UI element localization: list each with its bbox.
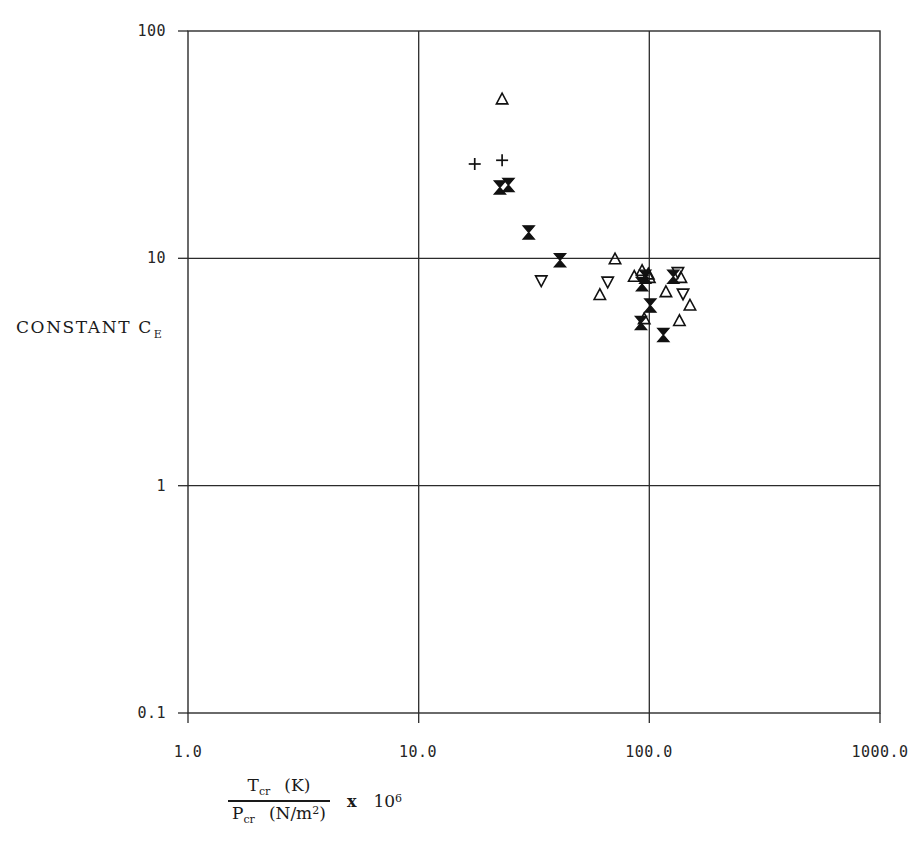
marker-bowtie — [503, 178, 514, 191]
multiplier-times-symbol: x — [347, 792, 357, 811]
marker-triangle-down — [536, 276, 547, 287]
numerator-symbol: Tcr — [248, 776, 271, 798]
marker-triangle-up — [496, 93, 507, 104]
marker-bowtie — [554, 254, 565, 267]
marker-bowtie — [523, 226, 534, 239]
scatter-chart-figure: 100 10 1 0.1 1.0 10.0 100.0 1000.0 CONST… — [0, 0, 919, 846]
grid-and-frame — [188, 31, 880, 713]
denominator-symbol: Pcr — [232, 804, 255, 826]
marker-triangle-up — [684, 299, 695, 310]
plot-frame — [188, 31, 880, 713]
marker-triangle-down — [602, 277, 613, 288]
x-axis-title: Tcr (K) Pcr (N/m2) x 106 — [228, 776, 402, 826]
fraction-numerator: Tcr (K) — [228, 776, 330, 800]
y-axis-title: CONSTANT CE — [16, 317, 162, 341]
y-tick-label-0.1: 0.1 — [74, 704, 166, 722]
marker-bowtie — [645, 299, 656, 312]
marker-triangle-down — [677, 289, 688, 300]
denominator-unit: (N/m2) — [269, 804, 326, 822]
x-tick-label-1000.0: 1000.0 — [820, 743, 919, 761]
series-plus — [469, 154, 508, 170]
y-axis-title-text: CONSTANT C — [16, 317, 153, 337]
series-filled-bowtie — [494, 178, 679, 341]
x-tick-label-10.0: 10.0 — [358, 743, 478, 761]
marker-bowtie — [658, 328, 669, 341]
series-down-triangle — [536, 268, 689, 300]
marker-triangle-up — [594, 289, 605, 300]
numerator-unit: (K) — [284, 776, 310, 794]
multiplier-power: 106 — [373, 791, 402, 811]
marker-triangle-up — [660, 286, 671, 297]
x-tick-label-1.0: 1.0 — [128, 743, 248, 761]
y-axis-title-subscript: E — [153, 328, 162, 341]
axis-ticks — [178, 31, 880, 723]
marker-bowtie — [636, 278, 647, 291]
marker-triangle-up — [674, 315, 685, 326]
x-tick-label-100.0: 100.0 — [589, 743, 709, 761]
y-tick-label-1: 1 — [74, 477, 166, 495]
x-axis-fraction: Tcr (K) Pcr (N/m2) — [228, 776, 330, 826]
y-tick-label-100: 100 — [74, 22, 166, 40]
y-tick-label-10: 10 — [74, 249, 166, 267]
data-markers-group — [469, 93, 696, 341]
series-up-triangle — [496, 93, 695, 325]
fraction-denominator: Pcr (N/m2) — [228, 802, 330, 826]
